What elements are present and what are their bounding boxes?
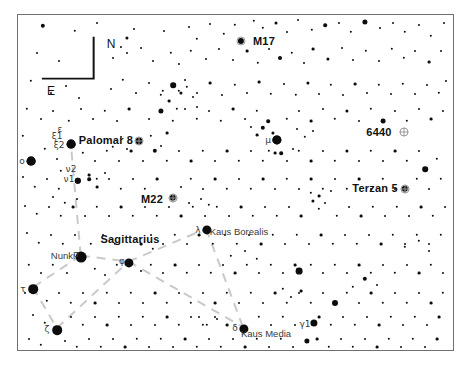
star: [150, 264, 152, 266]
dso-label: M17: [253, 36, 275, 47]
star: [370, 272, 372, 274]
star: [76, 346, 78, 348]
star: [346, 292, 348, 294]
star: [166, 132, 169, 135]
star: [208, 338, 210, 340]
star: [381, 119, 386, 124]
compass-east-label: E: [47, 85, 55, 97]
star: [192, 206, 194, 208]
star: [94, 160, 96, 162]
star: [430, 302, 433, 305]
star: [246, 92, 248, 94]
compass-north-label: N: [107, 38, 116, 50]
star: [110, 88, 112, 90]
star: [298, 188, 300, 190]
star: [226, 292, 228, 294]
star: [418, 272, 421, 275]
star: [262, 302, 264, 304]
star: [126, 148, 128, 150]
star: [390, 316, 392, 318]
star: [358, 264, 361, 267]
star: [76, 198, 78, 200]
star: [266, 119, 270, 123]
sky-frame: M17Palomar 86440M22Terzan 5SagittariusNu…: [17, 14, 454, 351]
star: [442, 272, 444, 274]
star: [230, 255, 232, 257]
star: [275, 22, 278, 25]
star: [428, 243, 430, 245]
star: [112, 146, 114, 148]
star: [196, 38, 198, 40]
star: [118, 160, 120, 162]
star: [96, 206, 98, 208]
star: [428, 61, 431, 64]
star: [318, 93, 320, 95]
star: [58, 292, 60, 294]
star: [88, 338, 90, 340]
star: [152, 248, 154, 250]
star: [128, 108, 131, 111]
star: [338, 22, 340, 24]
star: [66, 272, 68, 274]
star: [162, 243, 164, 245]
star: [26, 232, 28, 234]
star: [274, 152, 277, 155]
star: [270, 93, 272, 95]
star: [232, 338, 234, 340]
star: [404, 31, 406, 33]
star: [120, 46, 122, 48]
star: [178, 150, 180, 152]
star: [250, 292, 252, 294]
star: [291, 52, 293, 54]
star: [322, 272, 324, 274]
star: [442, 110, 444, 112]
star: [226, 150, 229, 153]
star: [162, 272, 164, 274]
star: [52, 110, 54, 112]
star: [130, 292, 132, 294]
star: [94, 268, 96, 270]
star: [258, 272, 260, 274]
star: [286, 31, 288, 33]
star: [174, 234, 176, 236]
star: [406, 160, 408, 162]
star: [64, 202, 66, 204]
star: [58, 188, 60, 190]
star: [378, 84, 380, 86]
star: [112, 338, 114, 340]
star: [234, 84, 236, 86]
star: [104, 110, 106, 112]
star: [108, 178, 110, 180]
star: [90, 243, 92, 245]
star: [366, 316, 368, 318]
star: [253, 20, 255, 22]
star: [258, 316, 260, 318]
greek-letter-label: δ: [232, 324, 238, 333]
star: [204, 215, 206, 217]
star: [310, 178, 313, 181]
star: [414, 93, 416, 95]
star: [286, 160, 288, 162]
star: [418, 292, 420, 294]
greek-letter-label: ζ: [45, 325, 50, 334]
star: [246, 264, 248, 266]
star: [228, 215, 230, 217]
star: [96, 186, 99, 189]
star: [170, 82, 176, 88]
star: [36, 52, 38, 54]
star: [352, 59, 354, 61]
star: [376, 346, 379, 349]
star: [416, 178, 418, 180]
star: [44, 148, 46, 150]
star: [154, 324, 156, 326]
star: [196, 106, 198, 108]
star: [286, 178, 288, 180]
star: [440, 178, 442, 180]
star: [22, 176, 24, 178]
star: [190, 50, 192, 52]
star: [120, 206, 123, 209]
star: [196, 92, 198, 94]
star: [388, 338, 390, 340]
star: [310, 264, 312, 266]
star: [184, 108, 186, 110]
